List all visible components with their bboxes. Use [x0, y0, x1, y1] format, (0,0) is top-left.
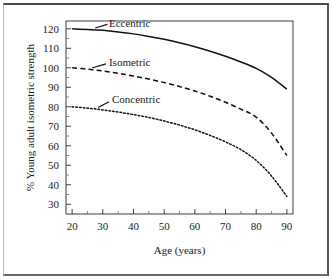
series-line-isometric: [72, 68, 287, 156]
x-tick-label-60: 60: [189, 220, 201, 232]
y-tick-label-90: 90: [48, 81, 60, 93]
y-tick-label-70: 70: [48, 120, 60, 132]
chart-plot-area: 203040506070809030405060708090100110120A…: [0, 0, 332, 279]
x-axis-title: Age (years): [154, 244, 206, 257]
series-label-concentric: Concentric: [112, 93, 160, 105]
series-label-eccentric: Eccentric: [109, 17, 151, 29]
line-chart: 203040506070809030405060708090100110120A…: [0, 0, 332, 279]
y-tick-label-120: 120: [43, 23, 60, 35]
x-tick-label-30: 30: [97, 220, 109, 232]
label-leader-eccentric: [95, 24, 107, 28]
x-tick-label-40: 40: [128, 220, 140, 232]
series-label-isometric: Isometric: [109, 56, 151, 68]
label-leader-isometric: [92, 64, 106, 68]
x-tick-label-20: 20: [67, 220, 79, 232]
y-tick-label-60: 60: [48, 140, 60, 152]
figure-root: 203040506070809030405060708090100110120A…: [0, 0, 332, 279]
series-line-concentric: [72, 107, 287, 197]
series-line-eccentric: [72, 29, 287, 89]
x-tick-label-70: 70: [220, 220, 232, 232]
y-tick-label-80: 80: [48, 101, 60, 113]
x-tick-label-80: 80: [251, 220, 263, 232]
y-tick-label-110: 110: [43, 42, 60, 54]
y-tick-label-100: 100: [43, 62, 60, 74]
plot-frame: [66, 21, 293, 214]
y-tick-label-40: 40: [48, 179, 60, 191]
x-tick-label-50: 50: [159, 220, 171, 232]
label-leader-concentric: [98, 102, 109, 108]
y-axis-title: % Young adult isometric strength: [24, 44, 36, 191]
y-tick-label-50: 50: [48, 159, 60, 171]
y-tick-label-30: 30: [48, 198, 60, 210]
x-tick-label-90: 90: [281, 220, 293, 232]
